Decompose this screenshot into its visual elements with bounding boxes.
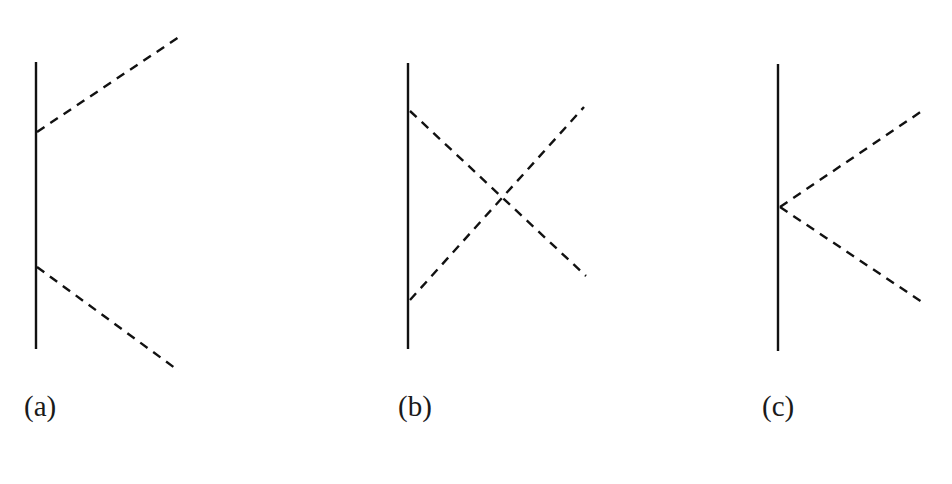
dashed-line-1 — [410, 111, 586, 276]
feynman-diagrams-canvas — [0, 0, 952, 484]
dashed-line-1 — [37, 37, 179, 132]
diagram-c — [778, 64, 925, 351]
diagram-label-b: (b) — [398, 390, 432, 423]
diagram-b — [408, 63, 586, 349]
diagram-label-a: (a) — [24, 390, 56, 423]
dashed-line-2 — [37, 267, 179, 371]
dashed-line-1 — [780, 111, 922, 207]
dashed-line-2 — [780, 207, 925, 304]
diagram-a — [36, 37, 179, 371]
diagram-label-c: (c) — [762, 390, 794, 423]
